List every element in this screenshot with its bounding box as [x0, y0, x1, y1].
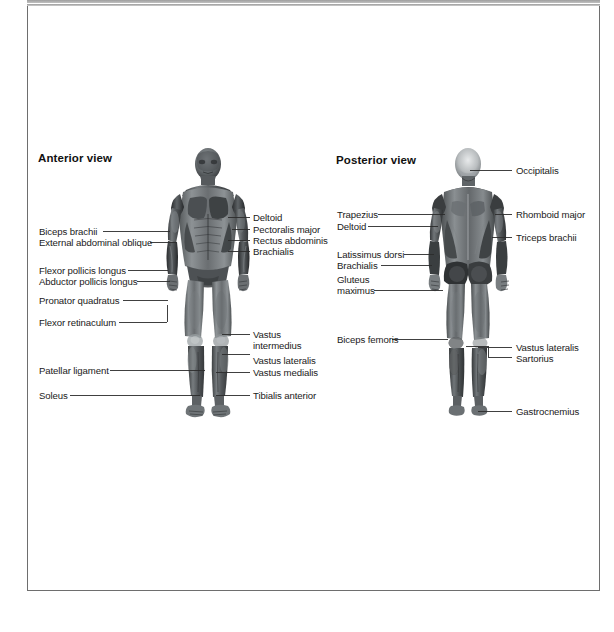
- posterior-figure-illustration: [418, 148, 522, 460]
- label-vastus-lateralis-anterior: Vastus lateralis: [253, 355, 316, 366]
- label-sartorius: Sartorius: [516, 353, 554, 364]
- label-brachialis-posterior: Brachialis: [337, 260, 378, 271]
- label-deltoid-posterior: Deltoid: [337, 221, 366, 232]
- label-vastus-intermedius-line2: intermedius: [253, 340, 302, 351]
- label-occipitalis: Occipitalis: [516, 165, 559, 176]
- label-tibialis-anterior: Tibialis anterior: [253, 390, 316, 401]
- anatomy-plate: Anterior view Posterior view Biceps brac…: [0, 0, 614, 632]
- label-gluteus-maximus-line1: Gluteus: [337, 274, 369, 285]
- label-abductor-pollicis-longus: Abductor pollicis longus: [39, 276, 137, 287]
- label-biceps-femoris: Biceps femoris: [337, 334, 399, 345]
- posterior-view-title: Posterior view: [336, 154, 416, 166]
- label-patellar-ligament: Patellar ligament: [39, 365, 109, 376]
- label-rectus-abdominis: Rectus abdominis: [253, 235, 328, 246]
- label-triceps-brachii: Triceps brachii: [516, 232, 577, 243]
- label-vastus-medialis: Vastus medialis: [253, 367, 318, 378]
- anterior-figure-illustration: [150, 148, 270, 460]
- label-vastus-lateralis-posterior: Vastus lateralis: [516, 342, 579, 353]
- label-trapezius: Trapezius: [337, 209, 378, 220]
- label-pectoralis-major: Pectoralis major: [253, 224, 320, 235]
- anterior-view-title: Anterior view: [38, 152, 112, 164]
- page-canvas: Anterior view Posterior view Biceps brac…: [0, 0, 614, 632]
- label-rhomboid-major: Rhomboid major: [516, 209, 585, 220]
- label-gastrocnemius: Gastrocnemius: [516, 406, 579, 417]
- label-external-abdominal-oblique: External abdominal oblique: [39, 237, 152, 248]
- label-deltoid-anterior: Deltoid: [253, 212, 282, 223]
- label-pronator-quadratus: Pronator quadratus: [39, 295, 119, 306]
- label-gluteus-maximus-line2: maximus: [337, 285, 375, 296]
- label-flexor-retinaculum: Flexor retinaculum: [39, 317, 116, 328]
- label-vastus-intermedius-line1: Vastus: [253, 329, 281, 340]
- label-soleus: Soleus: [39, 390, 68, 401]
- label-brachialis-anterior: Brachialis: [253, 246, 294, 257]
- label-flexor-pollicis-longus: Flexor pollicis longus: [39, 265, 126, 276]
- label-latissimus-dorsi: Latissimus dorsi: [337, 249, 404, 260]
- label-biceps-brachii: Biceps brachii: [39, 226, 97, 237]
